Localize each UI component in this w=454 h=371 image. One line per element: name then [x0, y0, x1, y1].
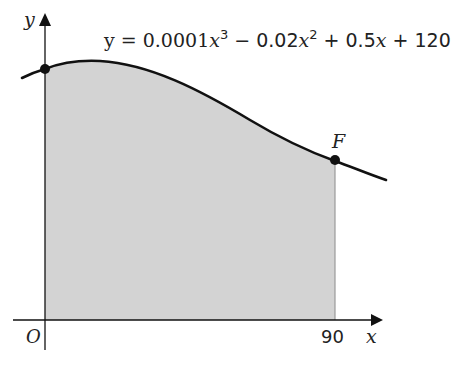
y-axis-label: y	[23, 8, 35, 30]
x-tick-90: 90	[321, 326, 344, 347]
equation-label: y = 0.0001x3 − 0.02x2 + 0.5x + 120	[103, 27, 451, 51]
eq-exp3: 3	[220, 27, 228, 42]
point-f	[330, 155, 340, 165]
eq-suffix: + 120	[386, 29, 450, 51]
y-axis-arrow-icon	[39, 13, 51, 26]
origin-label: O	[26, 326, 41, 347]
y-intercept-point	[40, 64, 50, 74]
eq-x3: x	[376, 29, 387, 51]
point-f-label: F	[331, 130, 346, 152]
eq-x2: x	[299, 29, 310, 51]
eq-mid1: − 0.02	[228, 29, 298, 51]
eq-x1: x	[209, 29, 220, 51]
area-under-curve-figure: y x O 90 F y = 0.0001x3 − 0.02x2 + 0.5x …	[0, 0, 454, 371]
eq-exp2: 2	[309, 27, 317, 42]
shaded-area	[45, 61, 335, 320]
eq-prefix: y = 0.0001	[103, 29, 209, 51]
eq-mid2: + 0.5	[318, 29, 376, 51]
x-axis-label: x	[366, 325, 377, 347]
